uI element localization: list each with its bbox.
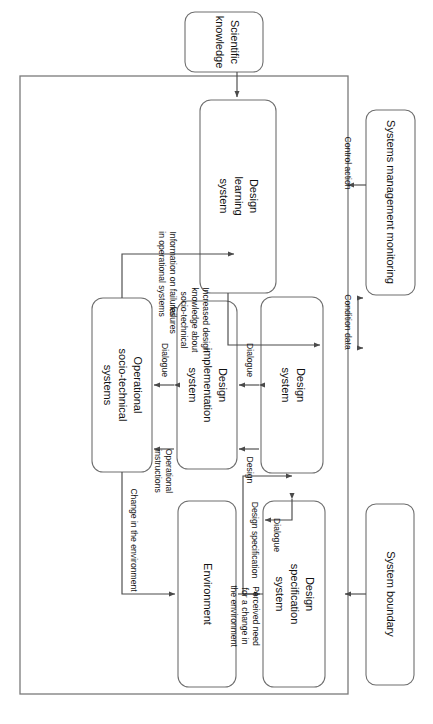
edge-label-control-action: Control action xyxy=(343,136,353,189)
edge-label-operational-instructions-line1: Operational xyxy=(164,449,174,494)
edge-label-perceived-need-line2: for a change in xyxy=(240,588,250,645)
node-design-specification-system-line2: specification xyxy=(289,564,301,625)
node-design-implementation-system-line1: Design xyxy=(217,368,229,402)
node-scientific-knowledge-line2: knowledge xyxy=(214,16,226,69)
edge-label-perceived-need-line1: Perceived need xyxy=(251,586,261,646)
edge-label-design-specification: Design specification xyxy=(250,502,260,579)
node-operational-socio-technical-systems-line2: socio-technical xyxy=(117,349,129,422)
systems-engineering-diagram: Scientific knowledge Design learning sys… xyxy=(0,0,433,724)
node-design-learning-system-line1: Design xyxy=(248,179,260,213)
node-design-learning-system-line3: system xyxy=(218,179,230,214)
edge-label-dialogue-spec: Dialogue xyxy=(272,518,282,552)
edge-label-operational-instructions-line2: instructions xyxy=(153,449,163,492)
edge-label-information-on-failures-line1: Information on failures xyxy=(168,231,178,316)
node-design-implementation-system-line2: implementation xyxy=(202,348,214,423)
node-operational-socio-technical-systems-line1: Operational xyxy=(132,357,144,414)
edge-label-increased-design-knowledge-line2: knowledge about xyxy=(190,288,200,354)
edge-label-condition-data: Condition data xyxy=(343,294,353,350)
node-design-system-line2: system xyxy=(280,368,292,403)
node-design-system-line1: Design xyxy=(295,368,307,402)
edge-label-dialogue-left: Dialogue xyxy=(245,343,255,377)
node-scientific-knowledge-line1: Scientific xyxy=(229,20,241,65)
node-systems-management-monitoring-line1: Systems management monitoring xyxy=(385,120,397,284)
edge-label-perceived-need-line3: the environment xyxy=(229,585,239,647)
diagram-canvas: Scientific knowledge Design learning sys… xyxy=(0,0,433,724)
edge-label-increased-design-knowledge-line1: Increased design xyxy=(201,287,211,353)
node-design-specification-system-line3: system xyxy=(274,577,286,612)
node-design-specification-system-line1: Design xyxy=(304,577,316,611)
node-operational-socio-technical-systems-line3: systems xyxy=(102,365,114,406)
node-environment-line1: Environment xyxy=(202,563,214,625)
node-design-implementation-system-line3: system xyxy=(187,368,199,403)
edge-label-dialogue-right: Dialogue xyxy=(160,343,170,377)
edge-label-increased-design-knowledge-line3: socio-technical xyxy=(179,292,189,349)
edge-label-information-on-failures-line2: in operational systems xyxy=(157,231,167,317)
edge-label-design: Design xyxy=(245,457,255,484)
node-system-boundary-legend-line1: System boundary xyxy=(385,551,397,637)
edge-label-change-in-environment: Change in the environment xyxy=(129,488,139,592)
node-design-learning-system-line2: learning xyxy=(233,176,245,215)
